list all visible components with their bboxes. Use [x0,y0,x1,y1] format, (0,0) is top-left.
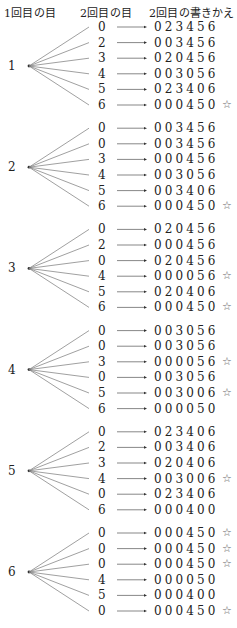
arrow-head-icon [144,275,147,278]
second-roll-value: 2 [98,36,106,50]
arrow-head-icon [144,563,147,566]
arrow-head-icon [144,26,147,29]
rewrite-result: 000450 [154,557,218,571]
second-roll-value: 5 [98,184,106,198]
branch-line [29,167,89,175]
second-roll-value: 4 [98,472,106,486]
branch-line [29,66,89,105]
second-roll-value: 0 [98,121,106,135]
branch-line [29,66,89,74]
arrow-head-icon [144,73,147,76]
arrow-head-icon [144,462,147,465]
arrow-head-icon [144,392,147,395]
arrow-head-icon [144,431,147,434]
arrow-head-icon [144,41,147,44]
branch-line [29,128,89,167]
second-roll-value: 6 [98,402,106,416]
first-roll-value: 4 [8,363,16,377]
rewrite-result: 020456 [154,51,218,65]
second-roll-value: 0 [98,425,106,439]
arrow-head-icon [144,594,147,597]
rewrite-result: 023406 [154,487,218,501]
second-roll-value: 5 [98,386,106,400]
arrow-head-icon [144,361,147,364]
star-icon: ☆ [222,199,232,213]
rewrite-result: 000450 [154,542,218,556]
second-roll-value: 0 [98,20,106,34]
branch-line [29,159,89,167]
star-icon: ☆ [222,355,232,369]
arrow-head-icon [144,493,147,496]
rewrite-result: 003406 [154,184,218,198]
second-roll-value: 4 [98,269,106,283]
second-roll-value: 3 [98,152,106,166]
second-roll-value: 6 [98,503,106,517]
arrow-head-icon [144,532,147,535]
rewrite-result: 000050 [154,573,218,587]
branch-line [29,463,89,471]
star-icon: ☆ [222,526,232,540]
rewrite-result: 000456 [154,238,218,252]
arrow-head-icon [144,189,147,192]
arrow-head-icon [144,376,147,379]
star-icon: ☆ [222,557,232,571]
second-roll-value: 6 [98,199,106,213]
first-roll-value: 5 [8,464,16,478]
second-roll-value: 4 [98,573,106,587]
branch-line [29,564,89,572]
branch-line [29,268,89,276]
first-roll-value: 1 [8,59,16,73]
arrow-head-icon [144,244,147,247]
rewrite-result: 003006 [154,386,218,400]
arrow-head-icon [144,104,147,107]
rewrite-result: 020406 [154,456,218,470]
arrow-head-icon [144,446,147,449]
rewrite-result: 020456 [154,254,218,268]
branch-line [29,167,89,206]
arrow-head-icon [144,291,147,294]
star-icon: ☆ [222,472,232,486]
arrow-head-icon [144,205,147,208]
arrow-head-icon [144,345,147,348]
rewrite-result: 000056 [154,355,218,369]
rewrite-result: 003406 [154,440,218,454]
branch-line [29,471,89,479]
rewrite-result: 003456 [154,137,218,151]
branch-line [29,471,89,510]
branch-line [29,331,89,370]
rewrite-result: 003056 [154,67,218,81]
rewrite-result: 000456 [154,152,218,166]
second-roll-value: 3 [98,456,106,470]
rewrite-result: 020406 [154,285,218,299]
second-roll-value: 0 [98,339,106,353]
second-roll-value: 6 [98,300,106,314]
second-roll-value: 4 [98,168,106,182]
second-roll-value: 0 [98,526,106,540]
first-roll-value: 3 [8,261,16,275]
second-roll-value: 3 [98,51,106,65]
arrow-head-icon [144,407,147,410]
rewrite-result: 023406 [154,425,218,439]
first-roll-value: 6 [8,565,16,579]
arrow-head-icon [144,610,147,613]
rewrite-result: 000050 [154,402,218,416]
arrow-head-icon [144,228,147,231]
arrow-head-icon [144,306,147,309]
arrow-head-icon [144,174,147,177]
branch-line [29,58,89,66]
second-roll-value: 5 [98,588,106,602]
rewrite-result: 003456 [154,121,218,135]
branch-line [29,27,89,66]
arrow-head-icon [144,329,147,332]
star-icon: ☆ [222,542,232,556]
second-roll-value: 0 [98,370,106,384]
arrow-head-icon [144,143,147,146]
second-roll-value: 2 [98,238,106,252]
arrow-head-icon [144,127,147,130]
arrow-head-icon [144,579,147,582]
second-roll-value: 0 [98,557,106,571]
second-roll-value: 0 [98,137,106,151]
second-roll-value: 2 [98,440,106,454]
rewrite-result: 003056 [154,168,218,182]
second-roll-value: 4 [98,67,106,81]
